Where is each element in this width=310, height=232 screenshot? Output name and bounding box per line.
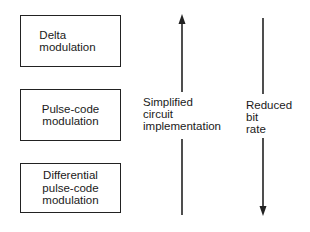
arrowhead-down-icon xyxy=(260,206,267,216)
reduced-bit-rate-label: Reduced bit rate xyxy=(246,99,292,135)
label-line: bit xyxy=(246,111,292,123)
label-line: Reduced xyxy=(246,99,292,111)
simplified-circuit-label: Simplified circuit implementation xyxy=(143,96,221,132)
label-line: circuit xyxy=(143,108,221,120)
label-line: implementation xyxy=(143,120,221,132)
label-line: rate xyxy=(246,123,292,135)
label-line: Simplified xyxy=(143,96,221,108)
arrowhead-up-icon xyxy=(179,14,186,24)
